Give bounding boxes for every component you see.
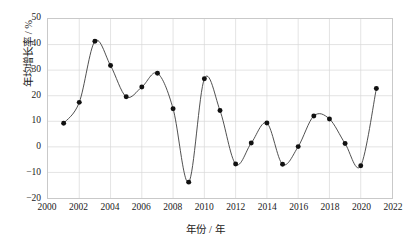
x-axis-tick-label: 2022 — [384, 203, 403, 213]
data-point-marker — [233, 162, 238, 167]
x-axis-tick-label: 2008 — [163, 203, 182, 213]
data-point-marker — [202, 76, 207, 81]
y-axis-tick-label: 0 — [36, 143, 41, 153]
data-point-marker — [264, 121, 269, 126]
x-axis-title: 年份 / 年 — [0, 221, 411, 236]
data-point-marker — [249, 141, 254, 146]
data-point-marker — [108, 63, 113, 68]
data-point-marker — [311, 113, 316, 118]
y-axis-title: 年均增长率 / % — [20, 0, 35, 129]
x-axis-tick-label: 2002 — [69, 203, 88, 213]
x-axis-tick-label: 2020 — [352, 203, 371, 213]
x-axis-tick-label: 2014 — [258, 203, 277, 213]
x-axis-tick-label: 2000 — [38, 203, 57, 213]
data-point-marker — [92, 39, 97, 44]
data-point-marker — [280, 162, 285, 167]
x-axis-tick-label: 2004 — [100, 203, 119, 213]
data-point-marker — [171, 106, 176, 111]
data-point-marker — [343, 141, 348, 146]
x-axis-tick-label: 2012 — [226, 203, 245, 213]
data-point-marker — [374, 86, 379, 91]
chart-figure: 50403020100−10−20 年份 / 年 年均增长率 / % 20002… — [0, 0, 411, 242]
data-point-marker — [327, 117, 332, 122]
x-axis-tick-label: 2016 — [289, 203, 308, 213]
data-point-marker — [61, 121, 66, 126]
data-point-marker — [124, 94, 129, 99]
data-point-marker — [296, 144, 301, 149]
x-axis-tick-label: 2010 — [195, 203, 214, 213]
y-axis-tick-label: −10 — [26, 168, 41, 178]
data-series-line — [48, 19, 392, 198]
data-point-marker — [77, 100, 82, 105]
data-point-marker — [358, 163, 363, 168]
data-point-marker — [155, 71, 160, 76]
data-point-marker — [139, 85, 144, 90]
x-axis-tick-label: 2018 — [321, 203, 340, 213]
data-point-marker — [218, 108, 223, 113]
plot-area — [47, 18, 393, 199]
data-point-marker — [186, 180, 191, 185]
x-axis-tick-label: 2006 — [132, 203, 151, 213]
